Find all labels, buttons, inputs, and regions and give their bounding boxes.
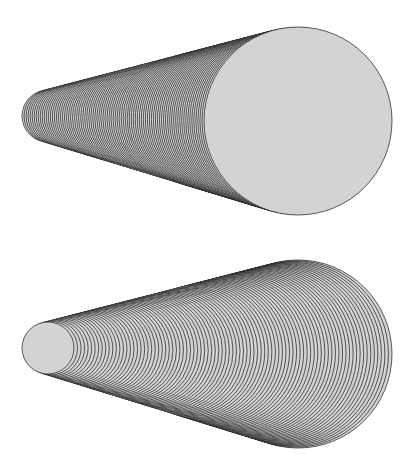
drawing-canvas	[0, 0, 412, 465]
stacked-circle	[204, 27, 392, 215]
stacked-circle	[22, 322, 74, 374]
